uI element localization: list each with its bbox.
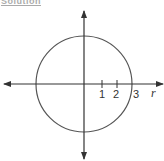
solution-heading: Solution (1, 0, 41, 6)
tick-label-3: 3 (133, 88, 139, 100)
polar-plot: 1 2 3 r (0, 0, 164, 161)
tick-label-2: 2 (113, 88, 119, 100)
polar-diagram: Solution 1 2 3 r (0, 0, 164, 161)
tick-label-1: 1 (99, 88, 105, 100)
r-axis-label: r (151, 86, 156, 100)
